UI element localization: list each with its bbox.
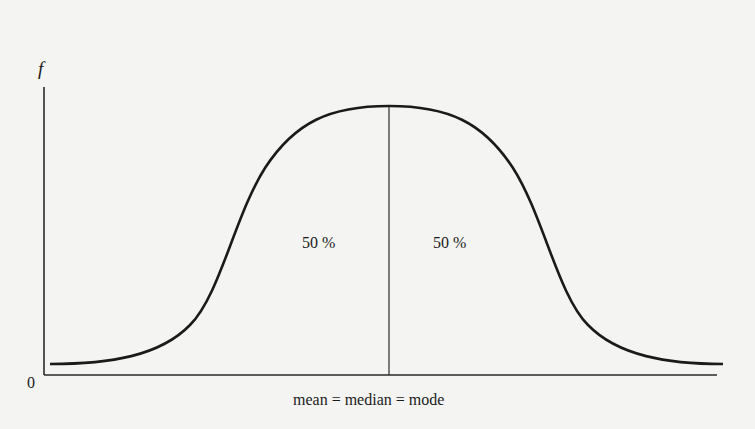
x-axis-caption: mean = median = mode [293, 391, 444, 408]
bell-curve [50, 106, 723, 364]
normal-distribution-diagram: f 0 50 % 50 % mean = median = mode [0, 0, 755, 429]
origin-label: 0 [27, 374, 35, 391]
right-area-label: 50 % [433, 234, 466, 251]
y-axis-label: f [38, 58, 46, 79]
left-area-label: 50 % [302, 234, 335, 251]
